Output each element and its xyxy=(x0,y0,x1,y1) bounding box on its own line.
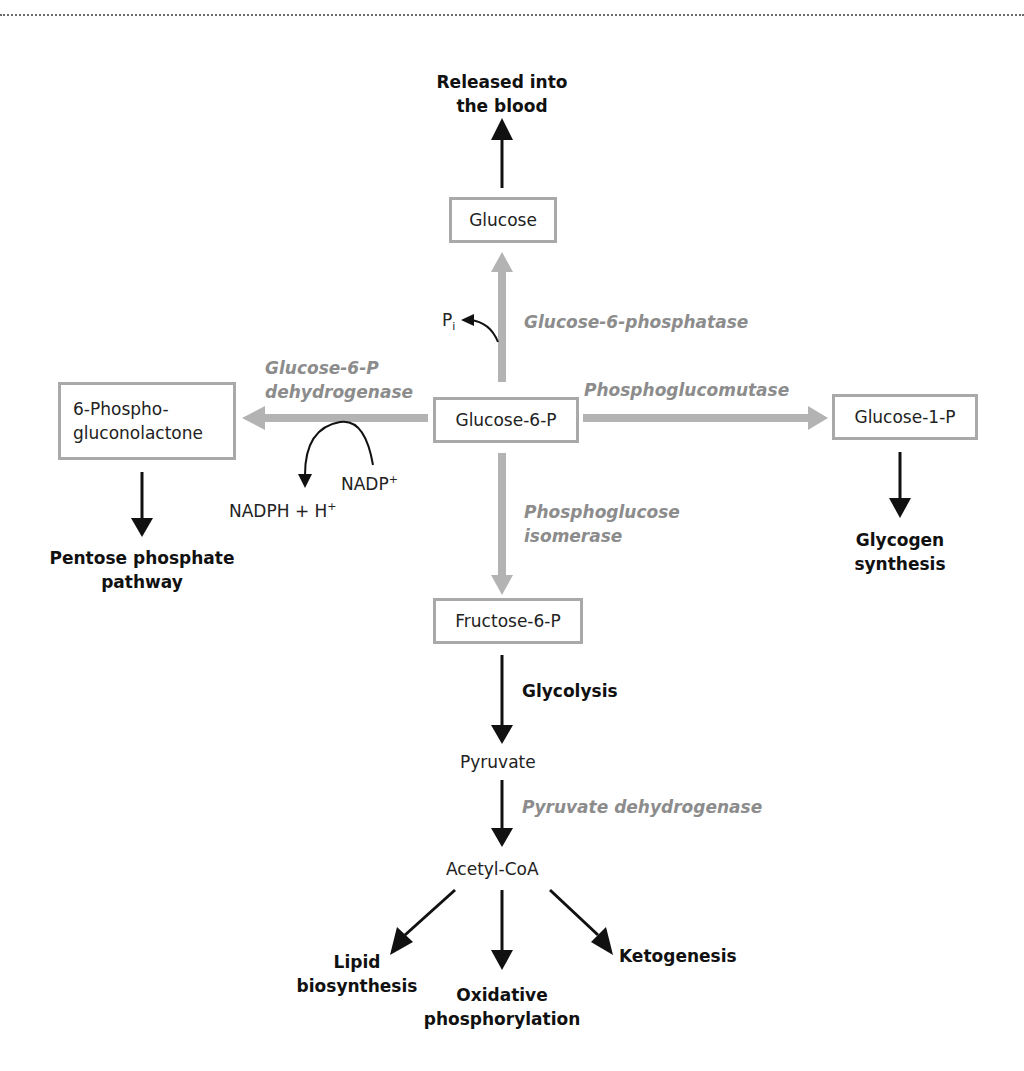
nadph-sup: + xyxy=(327,500,336,513)
arrow-pi-release xyxy=(461,314,498,342)
pentose-line2: pathway xyxy=(32,570,252,594)
g6pdh-line2: dehydrogenase xyxy=(265,380,425,404)
blood-line1: Released into xyxy=(412,70,592,94)
arrow-to-glycogen-synthesis xyxy=(889,452,911,518)
glucose-label: Glucose xyxy=(469,208,537,232)
glycogen-synthesis-label: Glycogen synthesis xyxy=(830,528,970,576)
pentose-phosphate-pathway-label: Pentose phosphate pathway xyxy=(32,546,252,594)
glucose-1-p-label: Glucose-1-P xyxy=(854,405,955,429)
pyruvate-label: Pyruvate xyxy=(460,750,536,774)
nadp-label: NADP+ xyxy=(341,468,398,496)
pgi-line1: Phosphoglucose xyxy=(524,500,680,524)
ketogenesis-label: Ketogenesis xyxy=(619,944,737,968)
arrow-to-pentose-pathway xyxy=(131,472,153,537)
arrow-to-lipid-biosynthesis xyxy=(390,890,455,955)
enzyme-pyruvate-dehydrogenase: Pyruvate dehydrogenase xyxy=(522,795,762,819)
phosphogluconolactone-label: 6-Phospho- gluconolactone xyxy=(73,397,203,445)
phosphogluconolactone-box: 6-Phospho- gluconolactone xyxy=(58,382,236,460)
pi-sub: i xyxy=(452,320,455,333)
enzyme-phosphoglucose-isomerase: Phosphoglucose isomerase xyxy=(524,500,680,548)
nadph-label: NADPH + H+ xyxy=(229,495,337,523)
released-into-blood-label: Released into the blood xyxy=(412,70,592,118)
arrow-g6p-to-fructose6p xyxy=(491,453,513,595)
glycogen-line2: synthesis xyxy=(830,552,970,576)
arrow-to-oxidative-phosphorylation xyxy=(491,890,513,970)
acetyl-coa-label: Acetyl-CoA xyxy=(446,857,539,881)
glucose-1-p-box: Glucose-1-P xyxy=(832,394,978,440)
nadp-sup: + xyxy=(389,473,398,486)
glycolysis-label: Glycolysis xyxy=(522,679,618,703)
lipid-line1: Lipid xyxy=(292,950,422,974)
enzyme-glucose-6-phosphatase: Glucose-6-phosphatase xyxy=(524,310,748,334)
lipid-biosynthesis-label: Lipid biosynthesis xyxy=(292,950,422,998)
glucose-6-p-box: Glucose-6-P xyxy=(433,397,579,443)
enzyme-g6p-dehydrogenase: Glucose-6-P dehydrogenase xyxy=(265,356,425,404)
fructose-6-p-label: Fructose-6-P xyxy=(455,609,560,633)
nadp-base: NADP xyxy=(341,474,389,494)
g6pdh-line1: Glucose-6-P xyxy=(265,356,425,380)
pgi-line2: isomerase xyxy=(524,524,680,548)
glucose-6-p-label: Glucose-6-P xyxy=(455,408,556,432)
glycogen-line1: Glycogen xyxy=(830,528,970,552)
arrow-g6p-to-phosphogluconolactone xyxy=(242,406,428,430)
fructose-6-p-box: Fructose-6-P xyxy=(433,598,583,644)
arrow-g6p-to-glucose xyxy=(491,252,513,382)
oxidative-phosphorylation-label: Oxidative phosphorylation xyxy=(412,983,592,1031)
oxphos-line1: Oxidative xyxy=(412,983,592,1007)
arrow-g6p-to-glucose1p xyxy=(583,406,828,430)
lipid-line2: biosynthesis xyxy=(292,974,422,998)
blood-line2: the blood xyxy=(412,94,592,118)
enzyme-phosphoglucomutase: Phosphoglucomutase xyxy=(584,378,789,402)
oxphos-line2: phosphorylation xyxy=(412,1007,592,1031)
arrow-to-ketogenesis xyxy=(550,890,613,955)
pgl-line1: 6-Phospho- xyxy=(73,397,203,421)
pgl-line2: gluconolactone xyxy=(73,421,203,445)
pi-label: Pi xyxy=(442,308,455,339)
pi-base: P xyxy=(442,310,452,330)
arrow-pyruvate-dehydrogenase xyxy=(491,780,513,847)
nadph-base: NADPH + H xyxy=(229,501,327,521)
pentose-line1: Pentose phosphate xyxy=(32,546,252,570)
glucose-box: Glucose xyxy=(449,197,557,243)
arrow-glucose-to-blood xyxy=(491,118,513,188)
arrow-glycolysis xyxy=(491,655,513,744)
